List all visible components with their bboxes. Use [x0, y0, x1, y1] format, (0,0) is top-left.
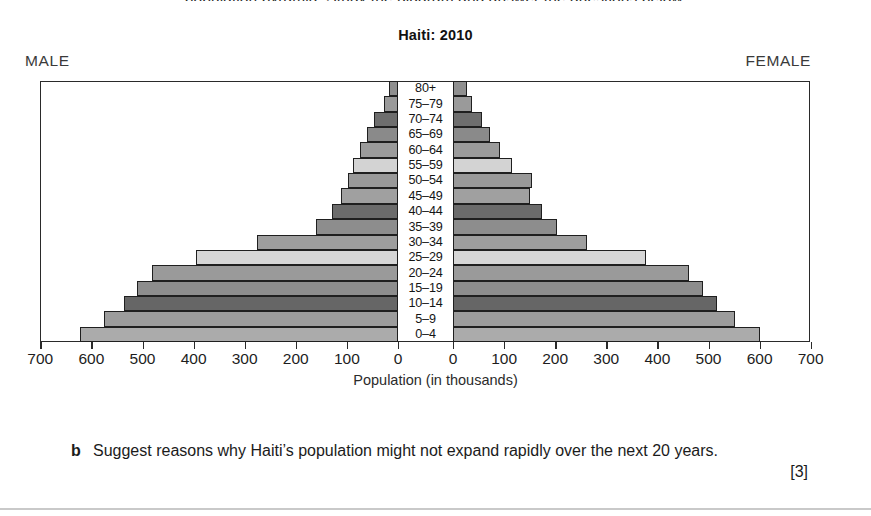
plot-area: 80+75–7970–7465–6960–6455–5950–5445–4940… — [40, 81, 810, 342]
pyramid-row: 30–34 — [40, 235, 810, 250]
male-bar — [152, 265, 398, 280]
x-axis-tick-label: 200 — [283, 350, 309, 368]
x-axis-tick — [347, 342, 348, 349]
pyramid-row: 70–74 — [40, 112, 810, 127]
question-marks: [3] — [790, 463, 808, 481]
age-group-label: 60–64 — [398, 142, 453, 157]
x-axis-tick — [504, 342, 505, 349]
pyramid-row: 20–24 — [40, 265, 810, 280]
question-text: Suggest reasons why Haiti’s population m… — [93, 442, 718, 459]
x-axis-tick-label: 100 — [334, 350, 360, 368]
male-bar — [137, 281, 398, 296]
pyramid-row: 25–29 — [40, 250, 810, 265]
pyramid-row: 45–49 — [40, 188, 810, 203]
age-group-label: 75–79 — [398, 96, 453, 111]
male-bar — [104, 311, 398, 326]
pyramid-row: 50–54 — [40, 173, 810, 188]
x-axis-tick — [40, 342, 41, 349]
pyramid-row: 5–9 — [40, 311, 810, 326]
female-bar — [453, 219, 557, 234]
x-axis-tick — [555, 342, 556, 349]
male-bar — [80, 327, 398, 342]
female-bar — [453, 96, 472, 111]
male-bar — [389, 81, 398, 96]
age-group-label: 70–74 — [398, 112, 453, 127]
pyramid-row: 80+ — [40, 81, 810, 96]
pyramid-row: 10–14 — [40, 296, 810, 311]
age-group-label: 25–29 — [398, 250, 453, 265]
female-bar — [453, 142, 500, 157]
x-axis-tick — [296, 342, 297, 349]
male-bar — [374, 112, 398, 127]
age-group-label: 0–4 — [398, 327, 453, 342]
pyramid-row: 60–64 — [40, 142, 810, 157]
x-axis-tick-label: 700 — [27, 350, 53, 368]
x-axis-tick — [760, 342, 761, 349]
male-bar — [196, 250, 398, 265]
pyramid-row: 55–59 — [40, 158, 810, 173]
x-axis-tick-label: 200 — [542, 350, 568, 368]
age-group-label: 5–9 — [398, 311, 453, 326]
x-axis-tick — [606, 342, 607, 349]
age-group-label: 55–59 — [398, 158, 453, 173]
age-group-label: 35–39 — [398, 219, 453, 234]
male-bar — [341, 188, 398, 203]
x-axis-tick — [398, 342, 399, 349]
female-bar — [453, 81, 467, 96]
female-bar — [453, 188, 530, 203]
x-axis-tick-label: 600 — [747, 350, 773, 368]
x-axis-tick-label: 400 — [181, 350, 207, 368]
x-axis-tick-label: 300 — [593, 350, 619, 368]
pyramid-row: 75–79 — [40, 96, 810, 111]
male-bar — [384, 96, 398, 111]
x-axis-tick-label: 300 — [232, 350, 258, 368]
age-group-label: 30–34 — [398, 235, 453, 250]
male-bar — [332, 204, 398, 219]
x-axis-tick — [91, 342, 92, 349]
age-group-label: 80+ — [398, 81, 453, 96]
x-axis-tick — [657, 342, 658, 349]
x-axis-tick-label: 700 — [798, 350, 824, 368]
x-axis-tick-label: 400 — [644, 350, 670, 368]
age-group-label: 20–24 — [398, 265, 453, 280]
x-axis-tick — [709, 342, 710, 349]
question-letter: b — [71, 438, 81, 463]
question-b: b Suggest reasons why Haiti’s population… — [93, 438, 793, 463]
female-bar — [453, 311, 735, 326]
x-axis-tick — [811, 342, 812, 349]
age-group-label: 40–44 — [398, 204, 453, 219]
male-bar — [360, 142, 398, 157]
pyramid-row: 40–44 — [40, 204, 810, 219]
pyramid-row: 35–39 — [40, 219, 810, 234]
pyramid-row: 15–19 — [40, 281, 810, 296]
pyramid-row: 0–4 — [40, 327, 810, 342]
x-axis-tick — [453, 342, 454, 349]
female-bar — [453, 158, 512, 173]
page-root: population pyramid. Study the diagram an… — [0, 0, 871, 516]
female-bar — [453, 127, 490, 142]
female-bar — [453, 204, 542, 219]
female-bar — [453, 327, 760, 342]
male-bar — [348, 173, 398, 188]
male-bar — [367, 127, 398, 142]
female-bar — [453, 112, 482, 127]
population-pyramid-figure: Haiti: 2010 MALE FEMALE 80+75–7970–7465–… — [0, 0, 871, 400]
bottom-rule — [0, 508, 871, 510]
x-axis-tick-label: 500 — [696, 350, 722, 368]
pyramid-row: 65–69 — [40, 127, 810, 142]
age-group-label: 15–19 — [398, 281, 453, 296]
female-bar — [453, 296, 717, 311]
male-bar — [257, 235, 398, 250]
female-bar — [453, 281, 703, 296]
chart-title: Haiti: 2010 — [0, 27, 871, 43]
male-bar — [124, 296, 398, 311]
age-group-label: 65–69 — [398, 127, 453, 142]
age-group-label: 10–14 — [398, 296, 453, 311]
female-side-label: FEMALE — [745, 52, 811, 70]
x-axis-tick-label: 600 — [78, 350, 104, 368]
female-bar — [453, 250, 646, 265]
male-side-label: MALE — [25, 52, 70, 70]
x-axis-tick-label: 0 — [449, 350, 458, 368]
female-bar — [453, 173, 532, 188]
x-axis-tick — [143, 342, 144, 349]
